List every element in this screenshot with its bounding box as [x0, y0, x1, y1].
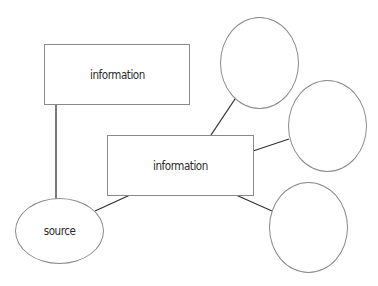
information-box-top-label: information — [90, 68, 145, 82]
source-ellipse-label: source — [44, 224, 76, 238]
information-box-center-label: information — [153, 159, 208, 173]
empty-ellipse-top — [220, 17, 299, 109]
empty-ellipse-right — [288, 80, 367, 172]
edge-info-center-to-ellipse-bottom — [236, 195, 272, 211]
source-ellipse: source — [15, 198, 104, 264]
empty-ellipse-bottom — [269, 182, 348, 273]
information-box-center: information — [107, 135, 254, 196]
information-box-top: information — [44, 44, 190, 105]
edge-info-center-to-ellipse-right — [253, 139, 289, 151]
edge-source-to-info-center — [95, 195, 130, 211]
edge-info-center-to-ellipse-top — [211, 99, 235, 135]
